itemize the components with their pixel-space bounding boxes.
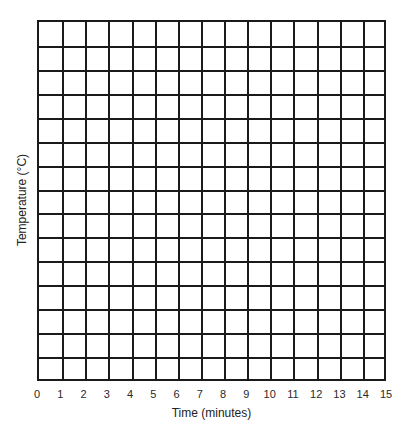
grid-horizontal-line bbox=[39, 166, 384, 168]
x-tick-label: 12 bbox=[304, 386, 328, 402]
grid-vertical-line bbox=[85, 22, 87, 379]
x-tick-label: 15 bbox=[374, 386, 398, 402]
grid-vertical-line bbox=[201, 22, 203, 379]
x-tick-label: 7 bbox=[188, 386, 212, 402]
grid-horizontal-line bbox=[39, 190, 384, 192]
x-tick-label: 13 bbox=[327, 386, 351, 402]
grid-vertical-line bbox=[108, 22, 110, 379]
x-tick-label: 14 bbox=[351, 386, 375, 402]
plot-grid bbox=[37, 20, 386, 381]
grid-vertical-line bbox=[224, 22, 226, 379]
x-tick-label: 9 bbox=[234, 386, 258, 402]
grid-vertical-line bbox=[363, 22, 365, 379]
grid-horizontal-line bbox=[39, 261, 384, 263]
x-tick-label: 2 bbox=[72, 386, 96, 402]
x-tick-label: 8 bbox=[211, 386, 235, 402]
grid-vertical-line bbox=[293, 22, 295, 379]
y-axis-title: Temperature (°C) bbox=[14, 120, 30, 280]
x-axis-title: Time (minutes) bbox=[37, 405, 386, 421]
grid-horizontal-line bbox=[39, 237, 384, 239]
grid-vertical-line bbox=[132, 22, 134, 379]
x-tick-label: 0 bbox=[25, 386, 49, 402]
grid-vertical-line bbox=[178, 22, 180, 379]
x-axis-ticks: 0123456789101112131415 bbox=[0, 386, 410, 402]
grid-horizontal-line bbox=[39, 118, 384, 120]
grid-horizontal-line bbox=[39, 309, 384, 311]
grid-horizontal-line bbox=[39, 213, 384, 215]
x-tick-label: 11 bbox=[281, 386, 305, 402]
blank-graph-chart: Temperature (°C) 0123456789101112131415 … bbox=[0, 0, 410, 438]
grid-horizontal-line bbox=[39, 357, 384, 359]
grid-vertical-line bbox=[247, 22, 249, 379]
x-tick-label: 6 bbox=[165, 386, 189, 402]
x-tick-label: 10 bbox=[258, 386, 282, 402]
grid-horizontal-line bbox=[39, 46, 384, 48]
grid-horizontal-line bbox=[39, 94, 384, 96]
grid-vertical-line bbox=[317, 22, 319, 379]
grid-horizontal-line bbox=[39, 285, 384, 287]
grid-horizontal-line bbox=[39, 333, 384, 335]
grid-horizontal-line bbox=[39, 142, 384, 144]
x-tick-label: 5 bbox=[141, 386, 165, 402]
x-tick-label: 1 bbox=[48, 386, 72, 402]
grid-vertical-line bbox=[270, 22, 272, 379]
grid-horizontal-line bbox=[39, 70, 384, 72]
grid-vertical-line bbox=[62, 22, 64, 379]
x-tick-label: 4 bbox=[118, 386, 142, 402]
grid-vertical-line bbox=[340, 22, 342, 379]
grid-vertical-line bbox=[155, 22, 157, 379]
x-tick-label: 3 bbox=[95, 386, 119, 402]
